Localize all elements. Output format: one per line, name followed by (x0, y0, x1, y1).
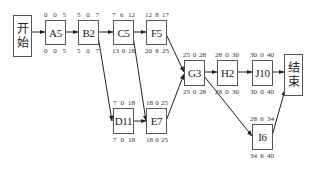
node-f-top-values: 12817 (145, 11, 169, 19)
ff: 8 (155, 47, 159, 55)
node-h-top-values: 28030 (215, 51, 239, 59)
ls: 34 (250, 152, 257, 160)
node-d-label: D11 (115, 115, 133, 127)
node-j-label: J10 (255, 67, 269, 79)
ef: 12 (128, 11, 135, 19)
lf: 5 (63, 47, 67, 55)
tf: 0 (121, 99, 125, 107)
node-b-bottom-values: 507 (77, 47, 99, 55)
node-a-label: A5 (49, 27, 62, 39)
node-b-top-values: 507 (77, 11, 99, 19)
network-diagram: 开 始 结 束 005 A5 005 507 B2 507 7612 C5 13… (0, 0, 313, 169)
lf: 25 (161, 136, 168, 144)
node-e-bottom-values: 18025 (146, 136, 168, 144)
lf: 28 (199, 88, 206, 96)
ef: 18 (128, 99, 135, 107)
ls: 20 (145, 47, 152, 55)
tf: 8 (155, 11, 159, 19)
node-d: D11 (113, 108, 134, 134)
ef: 5 (63, 11, 67, 19)
tf: 0 (260, 51, 264, 59)
ff: 6 (260, 152, 264, 160)
es: 28 (215, 51, 222, 59)
tf: 0 (155, 99, 159, 107)
node-e-top-values: 18025 (146, 99, 168, 107)
es: 0 (44, 11, 48, 19)
ef: 40 (267, 51, 274, 59)
node-g-label: G3 (188, 67, 201, 79)
end-node: 结 束 (284, 54, 303, 96)
node-f-label: F5 (151, 27, 162, 39)
ls: 18 (146, 136, 153, 144)
node-g: G3 (184, 60, 205, 86)
es: 18 (146, 99, 153, 107)
tf: 0 (193, 51, 197, 59)
lf: 18 (128, 136, 135, 144)
node-h: H2 (217, 60, 238, 86)
node-a: A5 (45, 20, 66, 45)
ls: 0 (44, 47, 48, 55)
node-j-bottom-values: 30040 (250, 88, 274, 96)
ef: 25 (161, 99, 168, 107)
ls: 13 (112, 47, 119, 55)
node-h-bottom-values: 28030 (215, 88, 239, 96)
node-b: B2 (78, 20, 99, 45)
node-c-top-values: 7612 (112, 11, 135, 19)
edge-b-d (98, 36, 112, 121)
node-c: C5 (113, 20, 134, 45)
ls: 5 (77, 47, 81, 55)
tf: 6 (120, 11, 124, 19)
lf: 25 (162, 47, 169, 55)
node-f-bottom-values: 20825 (145, 47, 169, 55)
node-e-label: E7 (151, 115, 163, 127)
node-c-label: C5 (117, 27, 129, 39)
ff: 0 (225, 88, 229, 96)
node-i-top-values: 28634 (250, 115, 274, 123)
node-j-top-values: 30040 (250, 51, 274, 59)
start-node: 开 始 (13, 15, 32, 57)
node-e: E7 (146, 108, 167, 134)
tf: 0 (86, 11, 90, 19)
node-i-bottom-values: 34640 (250, 152, 274, 160)
ef: 34 (267, 115, 274, 123)
start-label-1: 开 (17, 22, 29, 36)
node-b-label: B2 (82, 27, 94, 39)
lf: 30 (232, 88, 239, 96)
edge-e-g (166, 74, 184, 121)
ef: 28 (199, 51, 206, 59)
node-j: J10 (252, 60, 273, 86)
ff: 0 (122, 47, 126, 55)
ff: 0 (86, 47, 90, 55)
node-c-bottom-values: 13018 (112, 47, 135, 55)
ef: 17 (162, 11, 169, 19)
lf: 40 (267, 152, 274, 160)
ff: 0 (193, 88, 197, 96)
ff: 0 (53, 47, 57, 55)
ef: 30 (232, 51, 239, 59)
tf: 0 (225, 51, 229, 59)
ls: 30 (250, 88, 257, 96)
ef: 7 (96, 11, 100, 19)
es: 7 (112, 11, 116, 19)
end-label-2: 束 (288, 75, 300, 89)
node-f: F5 (146, 20, 167, 45)
node-h-label: H2 (221, 67, 234, 79)
edge-i-end (272, 90, 285, 136)
es: 25 (183, 51, 190, 59)
start-label-2: 始 (17, 36, 29, 50)
ls: 28 (215, 88, 222, 96)
node-i-label: I6 (258, 131, 267, 143)
es: 12 (145, 11, 152, 19)
es: 5 (77, 11, 81, 19)
ls: 25 (183, 88, 190, 96)
es: 7 (113, 99, 117, 107)
lf: 7 (96, 47, 100, 55)
tf: 6 (260, 115, 264, 123)
tf: 0 (53, 11, 57, 19)
node-d-bottom-values: 7018 (113, 136, 135, 144)
end-label-1: 结 (288, 61, 300, 75)
node-i: I6 (252, 124, 273, 150)
lf: 40 (267, 88, 274, 96)
ff: 0 (260, 88, 264, 96)
node-g-bottom-values: 25028 (183, 88, 206, 96)
